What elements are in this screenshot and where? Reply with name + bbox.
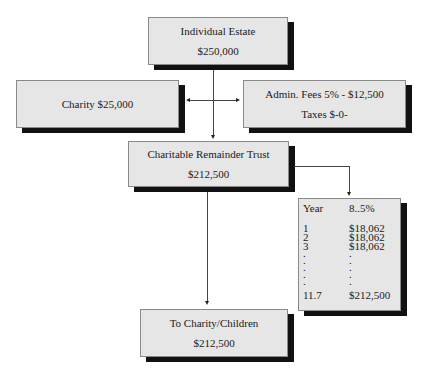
row-year: 1	[303, 224, 349, 233]
node-charity: Charity $25,000	[16, 80, 179, 128]
row-amount: $18,062	[349, 242, 396, 251]
ellipsis-dot: .	[303, 258, 349, 265]
connector-crt-to-table-v	[349, 166, 350, 193]
connector-to-charity	[190, 100, 213, 101]
arrowhead-right-icon	[236, 98, 240, 102]
ellipsis-dot: .	[349, 251, 396, 258]
ellipsis-dot: .	[349, 279, 396, 286]
node-charitable-remainder-trust: Charitable Remainder Trust $212,500	[128, 141, 289, 187]
table-header-row: Year 8..5%	[303, 202, 396, 214]
payout-table: Year 8..5% 1 $18,062 2 $18,062 3 $18,062…	[298, 198, 401, 311]
arrowhead-down-icon	[205, 301, 209, 305]
estate-title: Individual Estate	[181, 21, 256, 41]
arrowhead-down-icon	[211, 135, 215, 139]
final-amount: $212,500	[349, 289, 396, 301]
connector-to-admin	[214, 100, 236, 101]
arrowhead-left-icon	[186, 98, 190, 102]
header-year: Year	[303, 202, 349, 214]
row-year: 2	[303, 233, 349, 242]
admin-fees-label: Admin. Fees 5% - $12,500	[265, 84, 384, 104]
node-admin-fees-taxes: Admin. Fees 5% - $12,500 Taxes $-0-	[243, 80, 406, 128]
crt-value: $212,500	[188, 164, 229, 184]
ellipsis-dot: .	[349, 265, 396, 272]
taxes-label: Taxes $-0-	[301, 104, 348, 124]
estate-value: $250,000	[197, 41, 238, 61]
connector-crt-to-children	[207, 192, 208, 302]
table-final-row: 11.7 $212,500	[303, 289, 396, 301]
connector-crt-to-table-h	[294, 166, 349, 167]
ellipsis-dot: .	[303, 265, 349, 272]
charity-title: Charity $25,000	[62, 94, 134, 114]
ellipsis-dot: .	[303, 272, 349, 279]
row-year: 3	[303, 242, 349, 251]
final-year: 11.7	[303, 289, 349, 301]
arrowhead-down-icon	[347, 192, 351, 196]
node-to-charity-children: To Charity/Children $212,500	[140, 309, 288, 357]
children-title: To Charity/Children	[170, 313, 259, 333]
ellipsis-dot: .	[303, 251, 349, 258]
connector-estate-to-crt	[213, 70, 214, 136]
ellipsis-dot: .	[303, 279, 349, 286]
crt-title: Charitable Remainder Trust	[147, 144, 269, 164]
ellipsis-dot: .	[349, 258, 396, 265]
header-rate: 8..5%	[349, 202, 396, 214]
ellipsis-dot: .	[349, 272, 396, 279]
node-individual-estate: Individual Estate $250,000	[148, 17, 288, 65]
ellipsis-row: . .	[303, 279, 396, 286]
children-value: $212,500	[193, 333, 234, 353]
